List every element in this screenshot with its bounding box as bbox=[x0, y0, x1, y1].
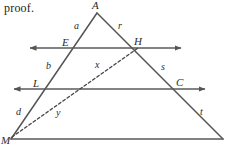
side-A-M bbox=[11, 13, 97, 139]
side-A-B bbox=[97, 13, 223, 139]
vertex-label-M: M bbox=[1, 135, 10, 146]
segment-label-x: x bbox=[95, 60, 99, 70]
vertex-label-L: L bbox=[33, 78, 39, 89]
segment-label-b: b bbox=[46, 61, 51, 71]
segment-label-t: t bbox=[200, 107, 203, 117]
triangle-sides bbox=[11, 13, 223, 139]
dashed-segments bbox=[12, 48, 138, 137]
vertex-label-A: A bbox=[92, 0, 99, 11]
diagram-page: proof. A E H L C M a r b x s d y bbox=[0, 0, 231, 151]
segment-label-d: d bbox=[16, 107, 21, 117]
vertex-label-H: H bbox=[134, 36, 142, 47]
segment-label-a: a bbox=[74, 21, 79, 31]
segment-label-s: s bbox=[161, 62, 165, 72]
segment-M-H bbox=[12, 48, 138, 137]
segment-label-r: r bbox=[118, 21, 122, 31]
geometry-figure bbox=[0, 0, 231, 151]
vertex-label-C: C bbox=[176, 77, 183, 88]
vertex-label-E: E bbox=[62, 37, 69, 48]
segment-label-y: y bbox=[56, 108, 60, 118]
